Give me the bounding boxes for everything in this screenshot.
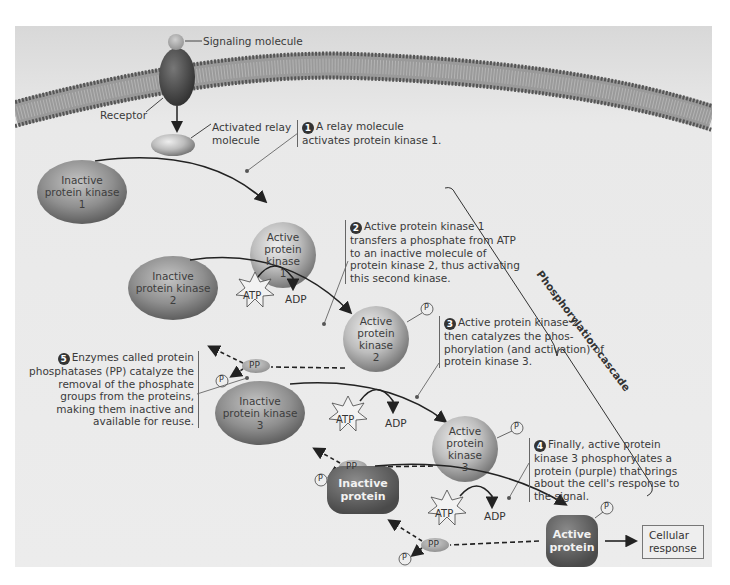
receptor-label: Receptor [100,109,147,122]
receptor-shape [159,48,195,106]
pi-2: P [318,474,323,483]
atp-label-2: ATP [336,414,354,425]
step-5-note: 5Enzymes called protein phosphatases (PP… [29,351,199,428]
phosphate-protein: P [604,502,609,511]
relay-molecule-label: Activated relay molecule [212,121,291,146]
active-pk2-label: Active protein kinase 2 [343,315,409,363]
signaling-molecule-shape [168,34,184,50]
inactive-pk3-label: Inactive protein kinase 3 [215,395,305,431]
adp-label-3: ADP [484,510,506,522]
step-2-number: 2 [350,222,362,234]
pp-label-1: PP [249,360,260,370]
pp-label-2: PP [346,461,357,471]
step-4-note: 4Finally, active protein kinase 3 phosph… [529,438,680,502]
step-1-note: 1A relay molecule activates protein kina… [297,120,441,147]
adp-label-2: ADP [385,417,407,429]
atp-label-3: ATP [435,508,453,519]
inactive-protein-label: Inactive protein [327,477,399,503]
active-pk3-label: Active protein kinase 3 [432,425,498,473]
pi-1: P [219,375,224,384]
atp-label-1: ATP [243,290,261,301]
relay-molecule-shape [151,134,195,156]
step-5-number: 5 [58,353,70,365]
inactive-pk1-label: Inactive protein kinase 1 [37,174,127,210]
adp-label-1: ADP [285,293,307,305]
active-protein-label: Active protein [546,528,598,554]
signaling-molecule-label: Signaling molecule [203,35,303,48]
phosphate-pk2: P [424,303,429,312]
pi-3: P [402,553,407,562]
pp-label-3: PP [428,539,439,549]
diagram-panel: Signaling molecule Receptor Activated re… [15,26,712,567]
step-3-number: 3 [444,318,456,330]
cellular-response-box: Cellular response [642,525,704,559]
active-pk1-label: Active protein kinase 1 [250,231,316,279]
step-1-number: 1 [302,122,314,134]
step-2-note: 2Active protein kinase 1 transfers a pho… [345,220,520,284]
inactive-pk2-label: Inactive protein kinase 2 [128,270,218,306]
step-4-number: 4 [534,440,546,452]
phosphate-pk3: P [514,422,519,431]
